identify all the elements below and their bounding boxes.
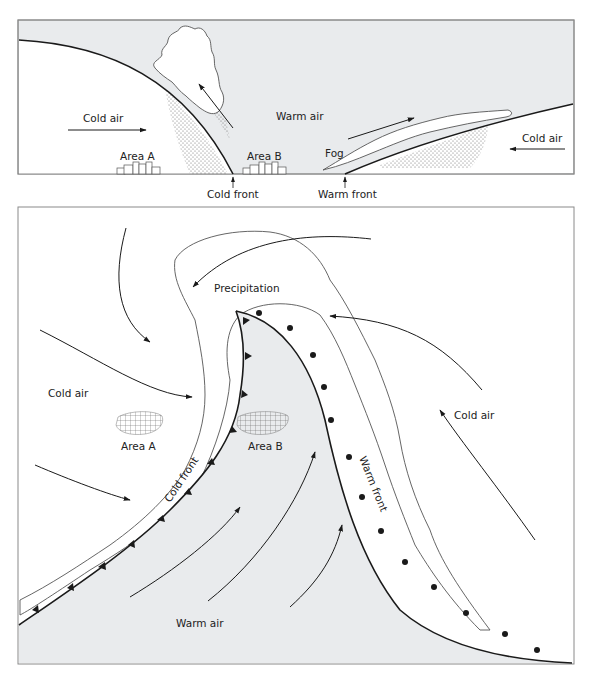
mid-latitude-cyclone-diagram: Cold air Warm air Cold air Area A Area B…: [0, 0, 592, 679]
label-cold-air-left: Cold air: [83, 112, 124, 124]
label-cold-air-right-plan: Cold air: [454, 409, 495, 421]
label-cold-air-right: Cold air: [522, 132, 563, 144]
label-warm-air: Warm air: [276, 110, 324, 122]
label-precipitation: Precipitation: [214, 282, 280, 294]
cross-section-panel: Cold air Warm air Cold air Area A Area B…: [18, 20, 574, 200]
label-area-a: Area A: [120, 150, 156, 162]
label-fog: Fog: [325, 147, 344, 159]
label-area-b: Area B: [247, 150, 282, 162]
plan-view-panel: Precipitation Cold air Cold air Area A A…: [18, 207, 574, 664]
label-cold-air-left-plan: Cold air: [48, 387, 89, 399]
label-cold-front: Cold front: [207, 188, 259, 200]
label-area-b-plan: Area B: [248, 440, 283, 452]
label-warm-front: Warm front: [318, 188, 377, 200]
label-area-a-plan: Area A: [121, 440, 157, 452]
label-warm-air-plan: Warm air: [176, 617, 224, 629]
